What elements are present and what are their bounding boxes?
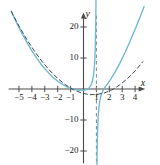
x-tick-label: 2 [102, 92, 116, 102]
x-tick-label: 3 [115, 92, 129, 102]
y-tick-label: −10 [57, 114, 79, 124]
x-tick-label: −5 [12, 92, 26, 102]
x-tick-label: −4 [25, 92, 39, 102]
x-tick-label: −2 [51, 92, 65, 102]
x-tick-label: −3 [38, 92, 52, 102]
function-graph-svg [0, 0, 160, 165]
x-tick-label: 1 [89, 92, 103, 102]
graph-figure: −5−4−3−2−11234−20−101020xy [0, 0, 160, 165]
x-tick-label: 4 [128, 92, 142, 102]
x-axis-label: x [141, 77, 145, 88]
y-axis-label: y [86, 8, 90, 19]
x-tick-label: −1 [64, 92, 78, 102]
y-tick-label: 20 [57, 21, 79, 31]
curve-right-branch [97, 7, 144, 165]
y-tick-label: 10 [57, 52, 79, 62]
y-tick-label: −20 [57, 145, 79, 155]
